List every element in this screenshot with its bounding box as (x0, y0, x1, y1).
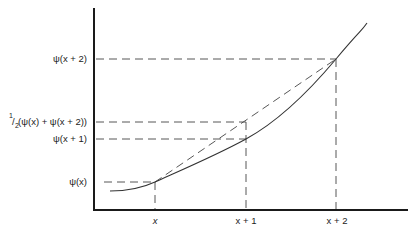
label-half-sum-den: 2 (15, 122, 19, 129)
label-psi-x2: ψ(x + 2) (53, 53, 87, 64)
label-x: x (152, 215, 159, 226)
chord (155, 59, 336, 182)
label-psi-x: ψ(x) (69, 176, 87, 187)
label-psi-x1: ψ(x + 1) (53, 133, 87, 144)
convexity-diagram: ψ(x + 2) (ψ(x) + ψ(x + 2)) 1 / 2 ψ(x + 1… (0, 0, 417, 232)
label-x1: x + 1 (236, 215, 257, 226)
psi-curve (110, 23, 367, 191)
label-half-sum: (ψ(x) + ψ(x + 2)) (18, 116, 87, 127)
label-x2: x + 2 (327, 215, 348, 226)
